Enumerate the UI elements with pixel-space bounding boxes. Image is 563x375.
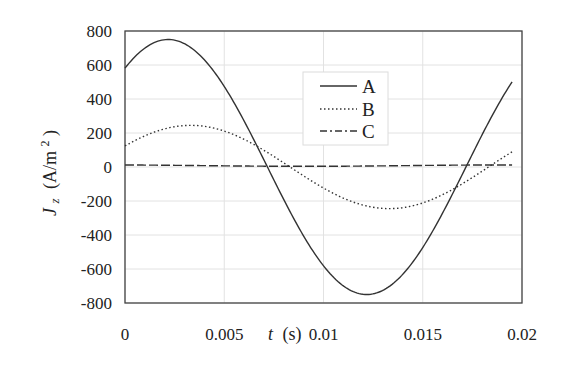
x-tick-label: 0.01 xyxy=(309,325,339,344)
y-axis-unit: (A/m xyxy=(40,151,61,189)
y-tick-label: -400 xyxy=(81,226,112,245)
y-axis-variable: J xyxy=(40,207,60,216)
x-tick-label: 0.02 xyxy=(507,325,537,344)
y-axis-subscript: z xyxy=(47,198,62,204)
legend-label-c: C xyxy=(362,121,375,142)
y-tick-label: -600 xyxy=(81,260,112,279)
x-axis-unit: (s) xyxy=(283,324,302,345)
y-axis-close-paren: ) xyxy=(40,130,61,136)
x-tick-label: 0.015 xyxy=(404,325,442,344)
legend-label-b: B xyxy=(362,99,375,120)
series-line-c xyxy=(125,165,512,166)
x-tick-label: 0.005 xyxy=(205,325,243,344)
y-tick-label: 0 xyxy=(104,158,113,177)
line-chart: 8006004002000-200-400-600-800 00.0050.01… xyxy=(0,0,563,375)
y-axis-superscript: 2 xyxy=(38,140,52,146)
y-tick-label: 800 xyxy=(87,22,113,41)
y-tick-label: 600 xyxy=(87,56,113,75)
x-tick-label: 0 xyxy=(121,325,130,344)
y-tick-label: 200 xyxy=(87,124,113,143)
y-tick-label: 400 xyxy=(87,90,113,109)
y-tick-labels: 8006004002000-200-400-600-800 xyxy=(81,22,112,313)
y-tick-label: -200 xyxy=(81,192,112,211)
x-axis-label: t (s) xyxy=(268,324,302,345)
legend-label-a: A xyxy=(362,76,376,97)
x-tick-labels: 00.0050.010.0150.02 xyxy=(121,325,537,344)
y-tick-label: -800 xyxy=(81,294,112,313)
y-axis-label: J z (A/m 2 ) xyxy=(33,130,63,216)
x-axis-variable: t xyxy=(268,324,274,344)
legend: A B C xyxy=(303,72,388,145)
